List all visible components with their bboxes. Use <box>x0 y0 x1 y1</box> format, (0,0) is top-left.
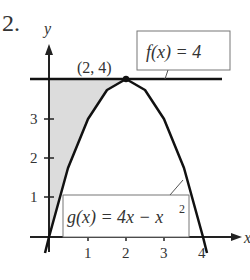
y-tick-2: 2 <box>30 150 38 166</box>
figure: 2. y x 1 2 3 4 1 2 3 <box>0 0 250 280</box>
x-tick-2: 2 <box>122 245 130 261</box>
f-label: f(x) = 4 <box>146 42 201 63</box>
f-label-leader <box>165 70 168 79</box>
y-tick-1: 1 <box>30 189 38 205</box>
graph: y x 1 2 3 4 1 2 3 (2, 4) <box>0 0 250 280</box>
g-label-leader <box>170 180 183 195</box>
y-axis-label: y <box>42 20 52 38</box>
g-label: g(x) = 4x − x <box>67 207 163 228</box>
y-tick-3: 3 <box>30 111 38 127</box>
x-axis-label: x <box>243 229 250 246</box>
y-axis-arrow-icon <box>45 44 53 55</box>
intersection-point <box>123 76 129 82</box>
g-label-exponent: 2 <box>179 202 185 216</box>
x-tick-3: 3 <box>160 245 168 261</box>
x-axis-arrow-icon <box>231 233 242 241</box>
x-tick-1: 1 <box>84 245 92 261</box>
point-label: (2, 4) <box>77 59 112 77</box>
problem-number: 2. <box>2 10 20 37</box>
